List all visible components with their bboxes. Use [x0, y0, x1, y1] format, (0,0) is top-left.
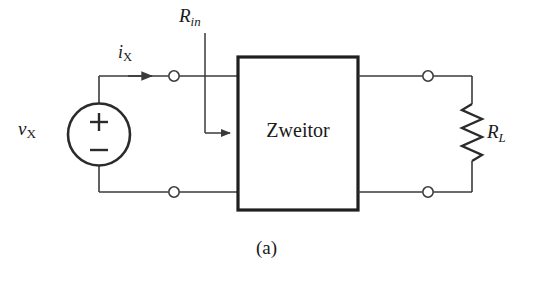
circuit-figure: vX iX Rin RL Zweitor (a) [0, 0, 533, 281]
input-bottom-wire-group [99, 187, 238, 197]
terminal-input-top [169, 71, 179, 81]
figure-caption: (a) [0, 237, 533, 259]
input-current-label: iX [118, 42, 132, 65]
terminal-output-top [423, 71, 433, 81]
input-top-wire-group [99, 71, 238, 81]
source-voltage-label: vX [18, 118, 36, 142]
load-resistor-label-main: R [487, 121, 499, 142]
source-voltage-label-sub: X [26, 126, 36, 141]
input-resistance-label: Rin [179, 5, 201, 30]
input-resistance-pointer [205, 33, 230, 133]
load-branch [462, 76, 482, 192]
load-resistor-label-sub: L [499, 130, 506, 145]
input-current-label-sub: X [123, 50, 132, 64]
independent-voltage-source [68, 104, 130, 166]
output-bottom-wire-group [358, 187, 472, 197]
terminal-output-bottom [423, 187, 433, 197]
voltage-source-circle [68, 104, 130, 166]
resistor-zigzag [462, 104, 482, 161]
load-resistor-label: RL [487, 121, 506, 146]
input-resistance-label-sub: in [191, 14, 201, 29]
terminal-input-bottom [169, 187, 179, 197]
output-top-wire-group [358, 71, 472, 81]
two-port-block-label: Zweitor [238, 119, 358, 142]
input-resistance-label-main: R [179, 5, 191, 26]
